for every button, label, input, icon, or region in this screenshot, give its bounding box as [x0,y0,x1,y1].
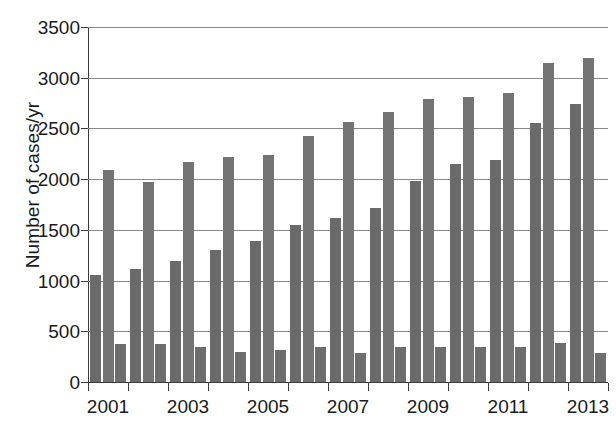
bar [570,104,581,382]
bar [303,136,314,382]
bar [410,181,421,382]
bar [475,347,486,383]
x-tick-mark [288,383,289,391]
bar [555,343,566,382]
bar [370,208,381,382]
bar [235,352,246,382]
y-tick-mark [81,230,88,231]
x-tick-mark [528,383,529,391]
bar [263,155,274,382]
bar [115,344,126,382]
x-tick-mark [88,383,89,391]
x-tick-mark [328,383,329,391]
bar [143,182,154,382]
y-tick-mark [81,382,88,383]
x-tick-label: 2013 [558,396,616,418]
bar [330,218,341,382]
bar [355,353,366,382]
bar [595,353,606,382]
x-tick-label: 2009 [398,396,458,418]
x-axis-line [88,382,608,383]
y-tick-label: 2000 [22,169,80,191]
x-tick-label: 2007 [318,396,378,418]
bar [490,160,501,382]
x-tick-mark [368,383,369,391]
y-tick-label: 2500 [22,118,80,140]
x-tick-label: 2001 [78,396,138,418]
x-tick-mark [568,383,569,391]
bar [155,344,166,382]
bar [223,157,234,382]
bar [543,63,554,382]
bar [315,347,326,382]
bar [343,122,354,382]
x-tick-mark [248,383,249,391]
y-tick-label: 1500 [22,220,80,242]
bar [130,269,141,382]
bar [290,225,301,382]
x-tick-mark [608,383,609,391]
y-tick-label: 1000 [22,271,80,293]
bar [395,347,406,383]
y-tick-mark [81,331,88,332]
x-tick-mark [488,383,489,391]
bar [210,250,221,382]
bar [503,93,514,382]
bar [275,350,286,382]
y-tick-mark [81,179,88,180]
bar [183,162,194,382]
bar [383,112,394,382]
bar [195,347,206,383]
bar [463,97,474,382]
x-tick-mark [208,383,209,391]
bar [530,123,541,382]
bar [423,99,434,382]
gridline [88,78,608,79]
bar [435,347,446,382]
y-tick-label: 3000 [22,68,80,90]
bar-chart: Number of cases/yr 050010001500200025003… [0,0,616,439]
plot-area [88,27,608,382]
gridline [88,27,608,28]
y-tick-mark [81,128,88,129]
bar [250,241,261,382]
x-tick-label: 2003 [158,396,218,418]
y-tick-label: 500 [22,321,80,343]
bar [103,170,114,382]
bar [450,164,461,382]
bar [90,275,101,383]
bar [515,347,526,383]
y-tick-label: 0 [22,372,80,394]
bar [583,58,594,382]
x-tick-label: 2005 [238,396,298,418]
x-tick-mark [408,383,409,391]
x-tick-mark [448,383,449,391]
x-tick-mark [168,383,169,391]
y-tick-mark [81,27,88,28]
y-tick-label: 3500 [22,17,80,39]
bar [170,261,181,382]
y-tick-mark [81,78,88,79]
y-tick-mark [81,281,88,282]
x-tick-label: 2011 [478,396,538,418]
x-tick-mark [128,383,129,391]
